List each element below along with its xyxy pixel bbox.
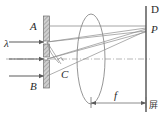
right-angle-mark-icon xyxy=(57,57,63,61)
double-slit-barrier xyxy=(44,16,50,88)
label-slit-a: A xyxy=(29,20,37,32)
label-screen-cjk: 屏 xyxy=(149,100,158,110)
optics-figure: λ A B C D P f 屏 xyxy=(0,0,164,119)
label-point-c: C xyxy=(61,68,69,80)
label-point-p: P xyxy=(150,23,158,35)
label-wavelength: λ xyxy=(3,37,9,49)
label-slit-b: B xyxy=(30,80,37,92)
ray-b-upper xyxy=(47,29,146,59)
ray-b-lower xyxy=(47,32,146,59)
figure-canvas: λ A B C D P f 屏 xyxy=(0,0,164,119)
barrier-block-lower xyxy=(44,60,50,88)
ray-a-upper xyxy=(47,28,146,42)
label-screen-d: D xyxy=(151,3,159,15)
ray-bundle-from-slit-a xyxy=(47,28,146,42)
focal-length-dimension xyxy=(91,97,146,108)
label-focal-length: f xyxy=(114,89,119,101)
barrier-block-upper xyxy=(44,16,50,41)
incident-ray-group xyxy=(9,42,44,76)
ray-a-lower xyxy=(47,31,146,42)
barrier-block-middle xyxy=(44,44,50,57)
